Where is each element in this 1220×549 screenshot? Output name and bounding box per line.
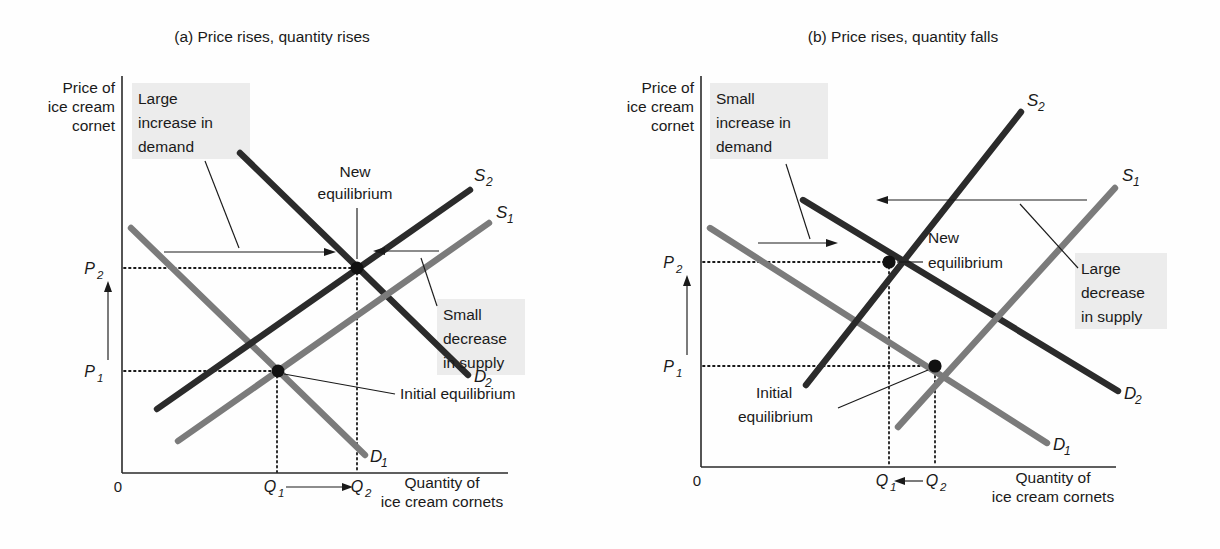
new-equilibrium-point <box>882 255 895 268</box>
price-tick-p1: P 1 <box>84 363 103 384</box>
curve-s2-sub: 2 <box>485 175 493 189</box>
curve-s2-sub: 2 <box>1037 100 1045 114</box>
quantity-shift-arrow <box>286 483 353 491</box>
new-equilibrium-point <box>351 262 364 275</box>
quantity-tick-q1-sub: 1 <box>278 487 284 499</box>
price-tick-p1-sub: 1 <box>676 367 682 379</box>
quantity-tick-q1-label: Q <box>264 478 276 495</box>
price-tick-p1-label: P <box>663 358 674 375</box>
quantity-tick-q1: Q 1 <box>264 478 285 499</box>
quantity-tick-q1-label: Q <box>876 472 888 489</box>
quantity-tick-q1: Q 1 <box>876 472 897 493</box>
curve-s1-sub: 1 <box>507 212 514 226</box>
panel-a: (a) Price rises, quantity rises Price of… <box>0 0 610 549</box>
demand-shift-callout-line-1: Large <box>138 90 178 107</box>
new-equilibrium-callout-line-2: equilibrium <box>318 185 393 202</box>
price-tick-p1-label: P <box>84 363 95 380</box>
curve-s2-label: S 2 <box>1027 91 1045 114</box>
price-tick-p1: P 1 <box>663 358 682 379</box>
price-tick-p2-label: P <box>84 260 95 277</box>
new-equilibrium-callout-line-1: New <box>339 163 371 180</box>
curve-s1-sub: 1 <box>1133 175 1140 189</box>
supply-shift-callout-line-1: Small <box>443 306 482 323</box>
supply-shift-callout-line-2: decrease <box>1081 284 1145 301</box>
quantity-tick-q2: Q 2 <box>351 478 372 499</box>
new-equilibrium-callout-line-2: equilibrium <box>928 254 1003 271</box>
new-equilibrium-callout-line-1: New <box>928 229 960 246</box>
y-axis-label-line-2: ice cream <box>627 98 694 115</box>
curve-d2-sub: 2 <box>1134 393 1142 407</box>
curve-d1-sub: 1 <box>1064 444 1071 458</box>
supply-shift-callout-line-3: in supply <box>1081 308 1142 325</box>
quantity-tick-q2-label: Q <box>926 472 938 489</box>
initial-equilibrium-point <box>928 359 941 372</box>
demand-shift-callout-line-3: demand <box>716 138 772 155</box>
x-axis-label-line-2: ice cream cornets <box>992 488 1115 505</box>
price-rise-arrow <box>104 281 112 360</box>
origin-label: 0 <box>693 472 701 489</box>
price-tick-p1-sub: 1 <box>97 372 103 384</box>
price-tick-p2: P 2 <box>663 254 683 275</box>
quantity-tick-q2-sub: 2 <box>364 487 372 499</box>
curve-s2-name: S <box>474 166 486 185</box>
x-axis-label-line-1: Quantity of <box>405 474 481 491</box>
origin-label: 0 <box>114 478 122 495</box>
curve-d1-label: D 1 <box>1053 435 1071 458</box>
y-axis-label-line-2: ice cream <box>48 98 115 115</box>
demand-shift-arrow <box>164 248 336 256</box>
curve-s1-label: S 1 <box>1122 166 1140 189</box>
initial-equilibrium-callout-line-1: Initial <box>756 384 792 401</box>
panel-b-chart: (b) Price rises, quantity falls Price of… <box>610 0 1220 549</box>
quantity-tick-q2-sub: 2 <box>939 481 947 493</box>
supply-shift-arrow <box>373 247 439 255</box>
supply-shift-arrow <box>876 196 1087 204</box>
quantity-tick-q1-sub: 1 <box>890 481 896 493</box>
price-tick-p2-sub: 2 <box>96 269 104 281</box>
demand-shift-callout-line-3: demand <box>138 138 194 155</box>
economics-figure: (a) Price rises, quantity rises Price of… <box>0 0 1220 549</box>
quantity-tick-q2-label: Q <box>351 478 363 495</box>
quantity-tick-q2: Q 2 <box>926 472 947 493</box>
curve-s2-label: S 2 <box>474 166 493 189</box>
y-axis-label-line-3: cornet <box>651 117 695 134</box>
demand-shift-callout-line-2: increase in <box>138 114 213 131</box>
curve-s1-label: S 1 <box>496 203 514 226</box>
demand-shift-callout-line-1: Small <box>716 90 755 107</box>
initial-equilibrium-callout-line-2: equilibrium <box>738 408 813 425</box>
panel-a-title: (a) Price rises, quantity rises <box>174 28 370 45</box>
initial-equilibrium-callout-line-1: Initial equilibrium <box>400 385 515 402</box>
y-axis-label-line-1: Price of <box>641 79 694 96</box>
x-axis-label-line-2: ice cream cornets <box>381 493 504 510</box>
x-axis-label-line-1: Quantity of <box>1016 469 1092 486</box>
y-axis-label-line-3: cornet <box>72 117 116 134</box>
price-tick-p2-label: P <box>663 254 674 271</box>
initial-equilibrium-point <box>272 365 285 378</box>
panel-b-title: (b) Price rises, quantity falls <box>808 28 999 45</box>
demand-shift-arrow <box>758 239 838 247</box>
curve-d2-label: D 2 <box>1124 384 1142 407</box>
panel-b: (b) Price rises, quantity falls Price of… <box>610 0 1220 549</box>
price-rise-arrow <box>683 275 691 355</box>
supply-shift-callout-line-3: in supply <box>443 354 504 371</box>
demand-shift-leader-line <box>205 161 239 248</box>
curve-s2 <box>806 112 1021 385</box>
price-tick-p2-sub: 2 <box>675 263 683 275</box>
quantity-shift-arrow <box>894 477 923 485</box>
demand-shift-callout-line-2: increase in <box>716 114 791 131</box>
supply-shift-callout-line-1: Large <box>1081 260 1121 277</box>
price-tick-p2: P 2 <box>84 260 104 281</box>
y-axis-label-line-1: Price of <box>62 79 115 96</box>
curve-d1-label: D 1 <box>370 447 388 470</box>
initial-equilibrium-leader-line <box>838 370 928 408</box>
panel-a-chart: (a) Price rises, quantity rises Price of… <box>0 0 610 549</box>
curve-d1-sub: 1 <box>381 456 388 470</box>
supply-shift-callout-line-2: decrease <box>443 330 507 347</box>
